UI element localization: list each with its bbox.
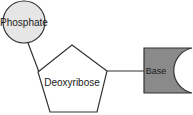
base-node: Base [144,48,192,93]
nucleotide-diagram: Phosphate Deoxyribose Base [0,0,193,115]
phosphate-label: Phosphate [0,17,48,28]
phosphate-sugar-bond [28,43,39,72]
phosphate-node: Phosphate [0,1,48,43]
deoxyribose-node: Deoxyribose [38,45,107,112]
deoxyribose-label: Deoxyribose [44,77,100,88]
base-label: Base [146,66,167,76]
